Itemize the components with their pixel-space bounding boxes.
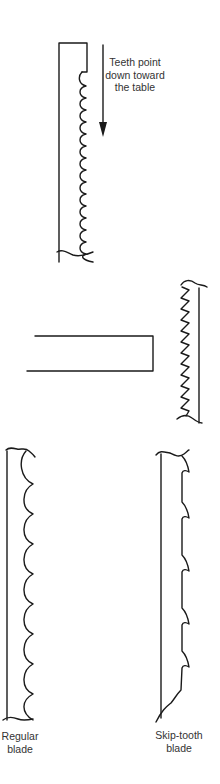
diagram-canvas [0, 0, 220, 784]
direction-note-line-2: down toward [104, 69, 166, 82]
direction-note-line-1: Teeth point [104, 56, 166, 69]
regular-blade-label-line-2: blade [0, 743, 46, 756]
skip-tooth-blade [156, 450, 189, 722]
regular-blade-label: Regular blade [0, 730, 46, 755]
blade-side-view [57, 43, 93, 262]
direction-note-line-3: the table [104, 81, 166, 94]
direction-note: Teeth point down toward the table [104, 56, 166, 94]
regular-blade [3, 448, 35, 720]
zigzag-blade [177, 281, 207, 423]
table-edge [27, 336, 153, 371]
skip-tooth-blade-label: Skip-tooth blade [148, 729, 210, 754]
skip-tooth-blade-label-line-1: Skip-tooth [148, 729, 210, 742]
skip-tooth-blade-label-line-2: blade [148, 742, 210, 755]
regular-blade-label-line-1: Regular [0, 730, 46, 743]
